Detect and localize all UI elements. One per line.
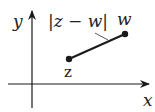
segment-z-w (69, 34, 125, 59)
point-z (66, 56, 72, 62)
x-axis-label: x (143, 90, 153, 110)
point-w-label: w (117, 9, 132, 29)
segment-leader-line (95, 33, 108, 40)
point-z-label: z (64, 63, 72, 81)
distance-label: |z − w| (48, 11, 108, 31)
complex-plane-diagram: y x z w |z − w| (0, 0, 155, 112)
y-axis-label: y (12, 11, 23, 31)
point-w (122, 31, 128, 37)
